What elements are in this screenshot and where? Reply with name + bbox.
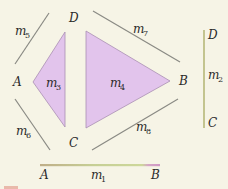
label-m1: m 1	[91, 168, 106, 184]
vertex-label-a: A	[12, 75, 22, 89]
graph-diagram: D A B C D C A B m 5 m 6 m 3 m 4 m 7 m 8 …	[0, 0, 228, 189]
svg-text:4: 4	[120, 83, 125, 92]
svg-text:1: 1	[101, 175, 106, 184]
svg-text:2: 2	[218, 75, 223, 84]
label-m7: m 7	[133, 22, 148, 38]
region-m4	[86, 31, 170, 128]
svg-text:5: 5	[25, 31, 30, 40]
vertex-label-c: C	[69, 136, 78, 150]
label-m2: m 2	[208, 68, 223, 84]
label-m6: m 6	[16, 124, 31, 140]
m2-bottom-label-c: C	[208, 116, 217, 130]
vertex-label-d: D	[68, 11, 79, 25]
vertex-label-b: B	[178, 74, 188, 88]
edge-m5	[15, 13, 49, 64]
m1-left-label-a: A	[39, 168, 49, 182]
label-m8: m 8	[136, 120, 151, 136]
svg-text:3: 3	[56, 83, 61, 92]
edge-m1	[40, 164, 160, 166]
caption-fragment	[4, 186, 18, 189]
svg-text:8: 8	[146, 127, 151, 136]
label-m5: m 5	[15, 24, 30, 40]
svg-text:6: 6	[26, 131, 31, 140]
m1-right-label-b: B	[150, 168, 160, 182]
m2-top-label-d: D	[207, 28, 218, 42]
svg-text:7: 7	[143, 29, 148, 38]
